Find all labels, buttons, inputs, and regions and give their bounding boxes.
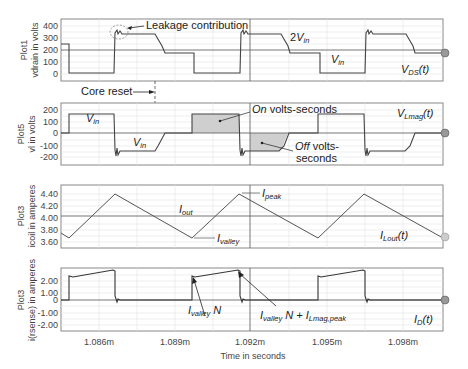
plot5-yticks: 200 100 0 -100 -200 bbox=[40, 105, 58, 162]
off-volt-seconds-label-line2: seconds bbox=[296, 152, 337, 164]
off-volt-seconds-label-line1: Off volts- bbox=[295, 140, 339, 152]
on-volt-seconds-label: On volts-seconds bbox=[252, 103, 337, 115]
svg-text:0: 0 bbox=[53, 69, 58, 79]
svg-text:1.092m: 1.092m bbox=[235, 337, 265, 347]
svg-text:300: 300 bbox=[43, 33, 58, 43]
svg-text:4.20: 4.20 bbox=[40, 201, 58, 211]
leakage-label: Leakage contribution bbox=[146, 19, 248, 31]
x-axis-label: Time in seconds bbox=[220, 351, 286, 361]
x-axis-ticks: 1.086m 1.089m 1.092m 1.095m 1.098m bbox=[84, 337, 418, 347]
plot3-icoil-trace-marker[interactable] bbox=[441, 233, 449, 241]
plot1-ylabel-line1: Plot1 bbox=[19, 40, 29, 61]
svg-text:200: 200 bbox=[43, 45, 58, 55]
svg-text:100: 100 bbox=[43, 117, 58, 127]
svg-text:1.095m: 1.095m bbox=[312, 337, 342, 347]
plot3-isense-panel: Ivalley N Ivalley N + ILmag,peak ID(t) 2… bbox=[16, 258, 449, 341]
plot5-trace-marker[interactable] bbox=[441, 129, 449, 137]
svg-text:1.086m: 1.086m bbox=[84, 337, 114, 347]
plot3-icoil-yticks: 4.40 4.20 4.00 3.80 3.60 bbox=[40, 189, 58, 247]
svg-text:1.098m: 1.098m bbox=[388, 337, 418, 347]
plot5-ylabel-line2: vl in volts bbox=[27, 115, 37, 153]
core-reset-label: Core reset bbox=[81, 85, 132, 97]
plot3-isense-ylabel-line1: Plot3 bbox=[16, 290, 26, 311]
svg-text:100: 100 bbox=[43, 57, 58, 67]
svg-text:-1.00: -1.00 bbox=[37, 308, 58, 318]
svg-text:200: 200 bbox=[43, 105, 58, 115]
id-label: ID(t) bbox=[414, 313, 433, 327]
svg-text:4.40: 4.40 bbox=[40, 189, 58, 199]
svg-text:0: 0 bbox=[53, 128, 58, 138]
plot3-isense-trace-marker[interactable] bbox=[441, 296, 449, 304]
svg-text:400: 400 bbox=[43, 21, 58, 31]
plot5-ylabel-line1: Plot5 bbox=[16, 124, 26, 145]
svg-text:4.00: 4.00 bbox=[40, 213, 58, 223]
svg-text:-100: -100 bbox=[40, 141, 58, 151]
plot1-trace-marker[interactable] bbox=[441, 49, 449, 57]
svg-text:3.60: 3.60 bbox=[40, 237, 58, 247]
plot3-icoil-panel: Iout Ipeak Ivalley ILout(t) 4.40 4.20 4.… bbox=[16, 184, 449, 248]
plot1-yticks: 400 300 200 100 0 bbox=[43, 21, 58, 79]
plot3-icoil-ylabel-line2: icoil in amperes bbox=[27, 184, 37, 247]
plot5-panel: Vin Vin On volts-seconds Off volts- seco… bbox=[16, 103, 449, 165]
svg-text:-2.00: -2.00 bbox=[37, 320, 58, 330]
waveform-figure: Leakage contribution 2Vin Vin VDS(t) 400… bbox=[0, 0, 468, 369]
plot1-ylabel-line2: vdrain in volts bbox=[30, 22, 40, 78]
plot3-isense-yticks: 2.00 1.00 0 -1.00 -2.00 bbox=[37, 276, 58, 330]
svg-text:3.80: 3.80 bbox=[40, 225, 58, 235]
core-reset-arrowhead bbox=[149, 90, 155, 94]
svg-text:1.089m: 1.089m bbox=[160, 337, 190, 347]
svg-text:2.00: 2.00 bbox=[40, 276, 58, 286]
plot3-icoil-ylabel-line1: Plot3 bbox=[16, 206, 26, 227]
svg-text:0: 0 bbox=[53, 295, 58, 305]
plot1-panel: Leakage contribution 2Vin Vin VDS(t) 400… bbox=[19, 19, 449, 81]
plot3-isense-ylabel-line2: i(rsense) in amperes bbox=[27, 258, 37, 341]
svg-text:-200: -200 bbox=[40, 152, 58, 162]
